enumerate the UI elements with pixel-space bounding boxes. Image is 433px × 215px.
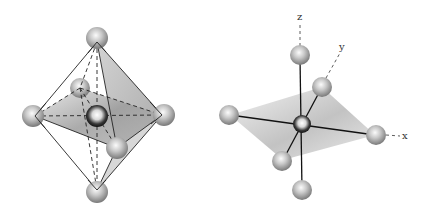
ligand-sphere-z-top [290, 45, 310, 65]
ligand-sphere-y-front [272, 151, 292, 171]
ligand-sphere-x-right [366, 125, 386, 145]
coordination-figure: z y x [219, 11, 408, 200]
ligand-sphere-top [86, 27, 108, 49]
ligand-sphere-y-back [312, 77, 332, 97]
diagram-svg: z y x [0, 0, 433, 215]
ligand-sphere-z-bottom [292, 180, 312, 200]
ligand-sphere-front [106, 137, 128, 159]
axis-label-z: z [297, 11, 302, 22]
central-atom [293, 115, 311, 133]
octahedron-figure [22, 27, 175, 203]
diagram-canvas: z y x [0, 0, 433, 215]
axis-label-x: x [402, 130, 408, 141]
ligand-sphere-left [22, 105, 44, 127]
axis-label-y: y [338, 41, 345, 52]
central-atom [86, 105, 108, 127]
ligand-sphere-bottom [86, 181, 108, 203]
ligand-sphere-right [153, 104, 175, 126]
ligand-sphere-x-left [219, 105, 239, 125]
